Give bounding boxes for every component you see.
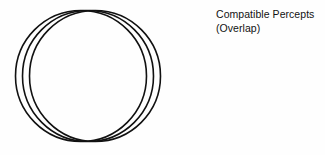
overlapping-circles-diagram xyxy=(0,0,200,155)
middle-circle xyxy=(23,11,154,142)
caption-line-1: Compatible Percepts xyxy=(216,8,321,22)
circles-svg xyxy=(0,0,200,155)
right-circle xyxy=(30,11,161,142)
figure-caption: Compatible Percepts (Overlap) xyxy=(216,8,321,35)
figure-root: Compatible Percepts (Overlap) xyxy=(0,0,325,155)
left-circle xyxy=(16,11,147,142)
caption-line-2: (Overlap) xyxy=(216,22,321,36)
